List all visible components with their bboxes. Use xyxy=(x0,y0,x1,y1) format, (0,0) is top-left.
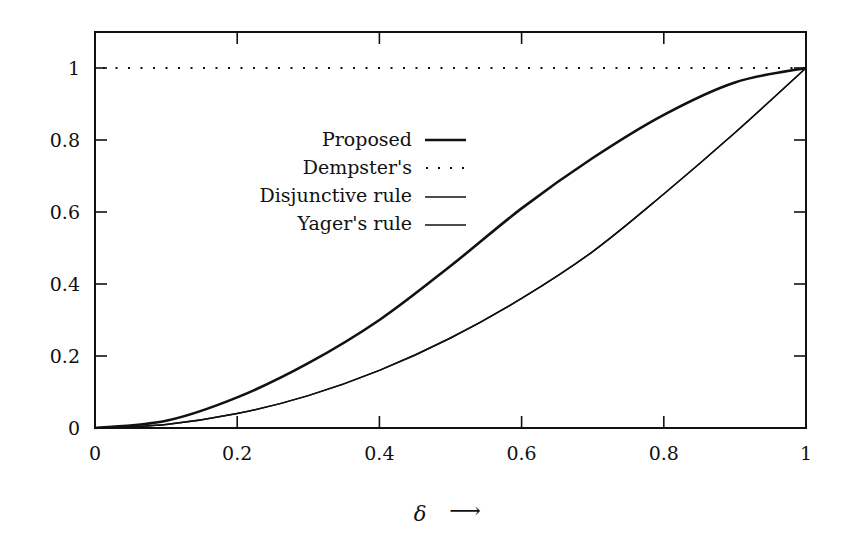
y-tick-label: 1 xyxy=(68,57,80,79)
axis-ticks xyxy=(95,32,806,428)
legend: Proposed Dempster's Disjunctive rule Yag… xyxy=(260,128,468,234)
x-axis-symbol: δ xyxy=(414,502,427,526)
series-proposed xyxy=(95,68,806,428)
x-tick-label: 0.6 xyxy=(506,442,536,464)
y-tick-label: 0 xyxy=(68,417,80,439)
y-tick-label: 0.2 xyxy=(50,345,80,367)
plot-frame xyxy=(95,32,806,428)
line-chart: 00.20.40.60.8100.20.40.60.81 Proposed De… xyxy=(0,0,850,549)
x-tick-label: 1 xyxy=(800,442,812,464)
y-tick-label: 0.4 xyxy=(50,273,80,295)
x-tick-label: 0.8 xyxy=(649,442,679,464)
series-yager-s-rule xyxy=(95,68,806,428)
legend-label-dempsters: Dempster's xyxy=(303,156,412,178)
y-tick-label: 0.6 xyxy=(50,201,80,223)
x-tick-label: 0 xyxy=(89,442,101,464)
x-tick-label: 0.2 xyxy=(222,442,252,464)
legend-label-proposed: Proposed xyxy=(322,128,412,150)
x-tick-label: 0.4 xyxy=(364,442,394,464)
series-disjunctive-rule xyxy=(95,68,806,428)
x-axis-label: δ ⟶ xyxy=(414,498,481,526)
legend-label-disjunctive: Disjunctive rule xyxy=(260,184,412,206)
tick-labels: 00.20.40.60.8100.20.40.60.81 xyxy=(50,57,812,464)
y-tick-label: 0.8 xyxy=(50,129,80,151)
legend-label-yagers: Yager's rule xyxy=(296,212,412,234)
right-arrow-icon: ⟶ xyxy=(449,498,481,523)
data-series xyxy=(95,68,806,428)
